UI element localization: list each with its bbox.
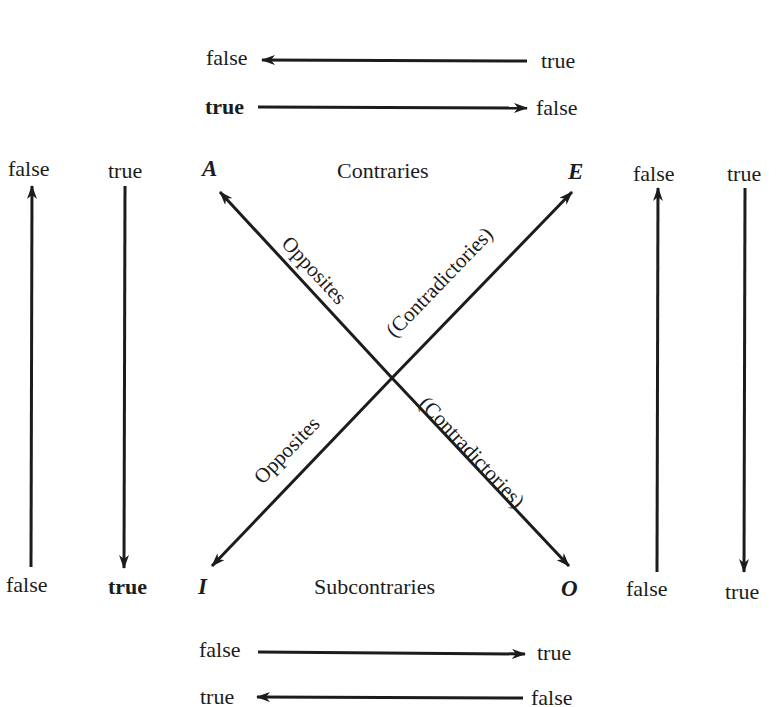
diagonal-i-e: [212, 378, 392, 566]
top-arrow-1-left-label: false: [206, 47, 248, 69]
top-arrow-2-left-label: true: [205, 96, 244, 118]
corner-a: A: [202, 158, 217, 180]
top-arrow-1-right-label: true: [541, 50, 575, 72]
left-arrow-2: [124, 186, 125, 568]
diagonal-a-o: [220, 192, 392, 378]
corner-o: O: [561, 578, 578, 600]
top-arrow-2: [258, 107, 527, 108]
corner-i: I: [198, 576, 207, 598]
right-arrow-1-top-label: false: [633, 163, 675, 185]
corner-e: E: [568, 161, 583, 183]
right-arrow-2-bottom-label: true: [725, 581, 759, 603]
left-arrow-1: [31, 186, 32, 567]
left-arrow-2-top-label: true: [108, 160, 142, 182]
right-arrow-1: [657, 188, 658, 572]
left-arrow-2-bottom-label: true: [108, 576, 147, 598]
subcontraries-label: Subcontraries: [314, 576, 435, 598]
bottom-arrow-1-left-label: false: [199, 639, 241, 661]
bottom-arrow-2-right-label: false: [531, 687, 573, 707]
right-arrow-1-bottom-label: false: [626, 578, 668, 600]
left-arrow-1-top-label: false: [8, 158, 50, 180]
contraries-label: Contraries: [337, 160, 429, 182]
right-arrow-2: [744, 188, 745, 572]
right-arrow-2-top-label: true: [727, 163, 761, 185]
bottom-arrow-1: [258, 652, 525, 654]
left-arrow-1-bottom-label: false: [6, 574, 48, 596]
top-arrow-2-right-label: false: [536, 97, 578, 119]
bottom-arrow-2: [257, 697, 523, 698]
top-arrow-1: [262, 60, 527, 61]
bottom-arrow-2-left-label: true: [200, 686, 234, 707]
bottom-arrow-1-right-label: true: [537, 642, 571, 664]
